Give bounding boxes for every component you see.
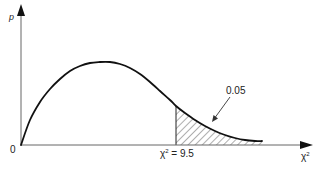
annotation-arrow-icon: [212, 115, 218, 122]
x-axis-superscript: 2: [306, 151, 309, 157]
x-axis-label: χ2: [301, 151, 310, 162]
annotation-arrow-line: [214, 97, 230, 119]
x-axis-arrow-icon: [300, 141, 313, 149]
chi-square-chart: [0, 0, 319, 170]
tail-area-label: 0.05: [226, 86, 245, 96]
origin-label: 0: [10, 145, 16, 155]
y-axis-label: p: [9, 13, 14, 22]
y-axis-arrow-icon: [17, 4, 25, 16]
critical-value-label: χ2 = 9.5: [160, 148, 194, 159]
critical-value-text: = 9.5: [169, 148, 194, 159]
